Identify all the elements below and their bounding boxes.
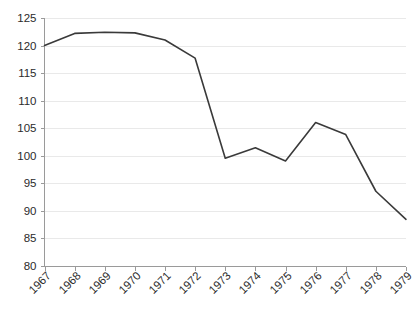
y-tick-label-125: 125 (17, 12, 36, 24)
y-tick-label-90: 90 (24, 205, 37, 217)
chart-canvas: 80859095100105110115120125 1967196819691… (0, 0, 420, 313)
y-tick-label-100: 100 (17, 150, 36, 162)
line-chart: 80859095100105110115120125 1967196819691… (0, 0, 420, 313)
y-tick-label-95: 95 (24, 177, 37, 189)
y-tick-label-80: 80 (24, 260, 37, 272)
y-tick-label-85: 85 (24, 232, 37, 244)
y-tick-label-120: 120 (17, 40, 36, 52)
y-tick-label-115: 115 (18, 67, 36, 79)
y-tick-label-110: 110 (18, 95, 36, 107)
y-tick-label-105: 105 (17, 122, 36, 134)
